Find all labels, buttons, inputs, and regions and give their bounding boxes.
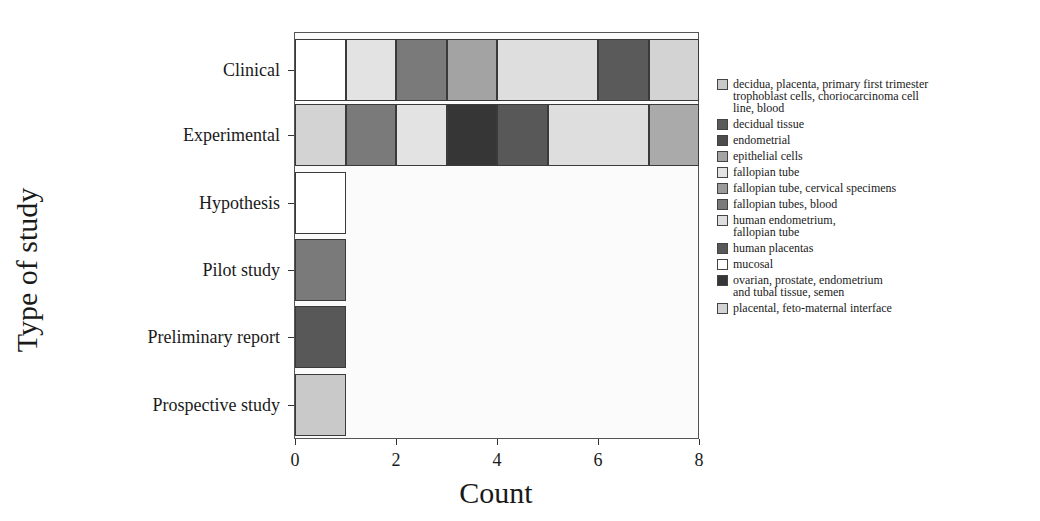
legend-swatch-icon	[717, 183, 728, 194]
bar-segment	[346, 39, 397, 101]
legend-item: epithelial cells	[717, 150, 973, 162]
legend-swatch-icon	[717, 275, 728, 286]
legend-label: mucosal	[733, 258, 973, 270]
legend-item: human placentas	[717, 242, 973, 254]
legend-item: fallopian tube	[717, 166, 973, 178]
y-tick	[288, 70, 294, 71]
legend-swatch-icon	[717, 151, 728, 162]
legend-swatch-icon	[717, 199, 728, 210]
legend-swatch-icon	[717, 303, 728, 314]
legend-swatch-icon	[717, 259, 728, 270]
bar-segment	[497, 104, 548, 166]
y-tick	[288, 270, 294, 271]
y-tick-label: Prospective study	[153, 395, 281, 416]
bar-segment	[649, 39, 700, 101]
x-tick-label: 4	[493, 450, 502, 471]
legend-item: decidua, placenta, primary first trimest…	[717, 78, 973, 114]
bar-segment	[497, 39, 598, 101]
y-tick	[288, 405, 294, 406]
x-tick-label: 8	[695, 450, 704, 471]
legend-item: fallopian tube, cervical specimens	[717, 182, 973, 194]
legend-label: ovarian, prostate, endometrium and tubal…	[733, 274, 973, 298]
y-axis-title: Type of study	[10, 188, 44, 353]
legend-label: fallopian tube, cervical specimens	[733, 182, 973, 194]
legend-swatch-icon	[717, 79, 728, 90]
legend-label: endometrial	[733, 134, 973, 146]
legend-label: decidual tissue	[733, 118, 973, 130]
y-tick	[288, 337, 294, 338]
legend-label: fallopian tubes, blood	[733, 198, 973, 210]
legend-label: human endometrium, fallopian tube	[733, 214, 973, 238]
bar-segment	[447, 104, 498, 166]
bar-row	[295, 39, 699, 101]
legend-item: placental, feto-maternal interface	[717, 302, 973, 314]
legend-label: fallopian tube	[733, 166, 973, 178]
bar-segment	[295, 306, 346, 368]
bar-segment	[649, 104, 700, 166]
legend-item: ovarian, prostate, endometrium and tubal…	[717, 274, 973, 298]
legend: decidua, placenta, primary first trimest…	[717, 78, 973, 318]
legend-swatch-icon	[717, 119, 728, 130]
y-tick-label: Hypothesis	[199, 193, 280, 214]
x-axis-title: Count	[459, 476, 532, 510]
bar-segment	[396, 39, 447, 101]
bar-row	[295, 172, 346, 234]
legend-item: mucosal	[717, 258, 973, 270]
bar-segment	[598, 39, 649, 101]
x-tick	[295, 439, 296, 445]
bar-segment	[295, 239, 346, 301]
legend-swatch-icon	[717, 135, 728, 146]
bar-segment	[295, 104, 346, 166]
x-tick-label: 6	[594, 450, 603, 471]
x-tick	[396, 439, 397, 445]
x-tick	[699, 439, 700, 445]
x-tick-label: 2	[392, 450, 401, 471]
y-tick-label: Preliminary report	[148, 327, 280, 348]
x-tick	[598, 439, 599, 445]
bar-segment	[346, 104, 397, 166]
bar-segment	[295, 39, 346, 101]
x-tick	[497, 439, 498, 445]
x-tick-label: 0	[291, 450, 300, 471]
bar-segment	[295, 374, 346, 436]
legend-label: placental, feto-maternal interface	[733, 302, 973, 314]
bar-segment	[396, 104, 447, 166]
legend-label: epithelial cells	[733, 150, 973, 162]
legend-item: human endometrium, fallopian tube	[717, 214, 973, 238]
legend-swatch-icon	[717, 215, 728, 226]
legend-label: decidua, placenta, primary first trimest…	[733, 78, 973, 114]
bar-row	[295, 374, 346, 436]
y-tick-label: Pilot study	[202, 260, 280, 281]
bar-segment	[548, 104, 649, 166]
y-tick-label: Clinical	[223, 60, 280, 81]
legend-swatch-icon	[717, 167, 728, 178]
bar-segment	[295, 172, 346, 234]
legend-label: human placentas	[733, 242, 973, 254]
legend-item: fallopian tubes, blood	[717, 198, 973, 210]
bar-row	[295, 104, 699, 166]
y-tick	[288, 135, 294, 136]
y-tick	[288, 203, 294, 204]
y-tick-label: Experimental	[183, 125, 280, 146]
bar-row	[295, 306, 346, 368]
legend-swatch-icon	[717, 243, 728, 254]
legend-item: decidual tissue	[717, 118, 973, 130]
legend-item: endometrial	[717, 134, 973, 146]
bar-row	[295, 239, 346, 301]
bar-segment	[447, 39, 498, 101]
